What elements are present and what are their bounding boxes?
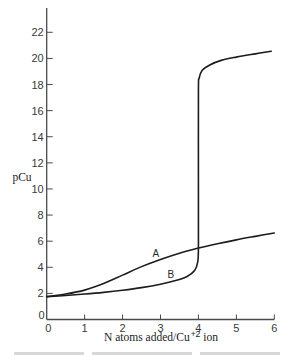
y-tick-label: 10 [31,183,43,195]
y-axis-title: pCu [12,171,31,184]
y-tick-label: 16 [31,105,43,117]
titration-chart: 02468101214161820220123456 AB pCu N atom… [0,0,291,355]
x-tick-label: 6 [271,322,277,334]
y-tick-label: 22 [31,26,43,38]
x-axis-title-tail: ion [200,331,218,343]
y-tick-label: 4 [38,261,44,273]
x-tick-label: 5 [233,322,239,334]
x-axis-title-main: N atoms added/Cu [104,331,190,343]
y-tick-label: 20 [31,52,43,64]
x-tick-label: 1 [82,322,88,334]
curve-label-a: A [153,248,160,259]
y-tick-label: 18 [31,79,43,91]
series-group [47,51,275,296]
y-tick-label: 12 [31,157,43,169]
y-tick-label: 14 [31,131,43,143]
x-axis-title-superscript: +2 [191,329,201,339]
y-tick-label: 6 [38,235,44,247]
x-tick-label: 0 [45,322,51,334]
y-tick-label: 8 [38,209,44,221]
y-tick-label: 2 [38,287,44,299]
curve-labels: AB [153,248,175,280]
x-axis-title: N atoms added/Cu+2 ion [104,329,218,343]
curve-a [47,233,275,297]
y-tick-label: 0 [39,309,45,321]
curve-label-b: B [167,269,174,280]
